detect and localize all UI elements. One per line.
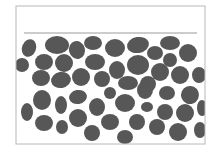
particle (21, 103, 33, 121)
particle (151, 63, 169, 81)
particle (45, 36, 69, 54)
particle (33, 90, 51, 110)
particle (157, 104, 173, 120)
particle (137, 81, 153, 99)
particle (89, 98, 105, 116)
particle (171, 66, 189, 84)
particle (109, 61, 125, 79)
particle (72, 68, 90, 86)
particle (32, 70, 50, 86)
particle (117, 130, 133, 144)
particle (169, 123, 187, 141)
particle (129, 114, 145, 130)
particle (115, 94, 135, 112)
diagram-canvas (0, 0, 218, 157)
particle (141, 102, 153, 112)
particle (85, 54, 105, 70)
particle (55, 96, 67, 114)
particle (118, 76, 138, 90)
particle (160, 36, 180, 50)
particle (159, 86, 175, 100)
particle (147, 46, 163, 60)
particle (94, 71, 110, 87)
particle (56, 120, 68, 134)
particle (179, 44, 197, 62)
particle (35, 115, 53, 131)
particle (35, 54, 53, 70)
particle (105, 39, 125, 57)
particle (176, 104, 194, 122)
particle (104, 87, 116, 99)
particle (127, 55, 149, 75)
particle (84, 125, 100, 141)
particle (15, 58, 29, 72)
particle (84, 36, 102, 50)
particle (55, 54, 73, 72)
particle (69, 109, 87, 127)
particle (194, 122, 206, 138)
particle (101, 114, 119, 130)
particle (149, 119, 165, 135)
particle-packing-diagram (0, 0, 218, 157)
particle (192, 67, 206, 83)
